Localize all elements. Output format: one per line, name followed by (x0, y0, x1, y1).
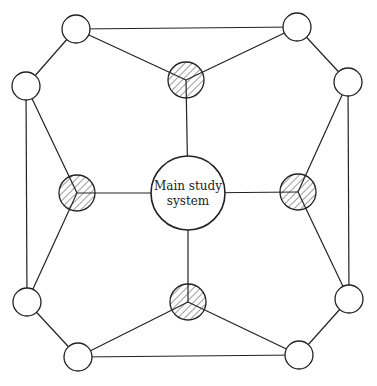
hatched-node-right (280, 174, 316, 210)
node-bottom-left (64, 343, 92, 371)
central-label-line1: Main study (154, 179, 222, 193)
hatched-node-bottom (170, 284, 206, 320)
central-label-line2: system (167, 194, 210, 208)
node-right-bottom (335, 285, 363, 313)
node-right-top (334, 68, 362, 96)
node-top-right (283, 13, 311, 41)
hatched-node-top (168, 62, 204, 98)
node-left-top (12, 72, 40, 100)
central-node (151, 156, 225, 230)
network-diagram: Main study system (0, 0, 377, 386)
node-left-bottom (13, 288, 41, 316)
node-top-left (62, 15, 90, 43)
hatched-node-left (59, 175, 95, 211)
node-bottom-right (285, 341, 313, 369)
